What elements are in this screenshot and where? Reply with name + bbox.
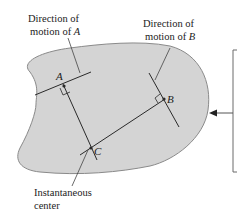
point-c-label: C <box>94 145 102 157</box>
point-a-marker <box>62 84 65 87</box>
ic-label-line1: Instantaneous <box>34 187 92 198</box>
dir-a-label-line2: motion of A <box>30 26 81 37</box>
point-a-label: A <box>55 70 63 82</box>
right-bracket <box>233 50 237 172</box>
ic-label-line2: center <box>34 200 60 211</box>
dir-a-label-line1: Direction of <box>28 13 80 24</box>
point-b-label: B <box>167 93 174 105</box>
dir-b-label-line2: motion of B <box>145 31 196 42</box>
point-c-marker <box>89 146 92 149</box>
point-b-marker <box>162 97 165 100</box>
instantaneous-center-diagram: A B C Direction of motion of A Direction… <box>0 0 237 216</box>
rigid-body-shape <box>18 43 209 174</box>
dir-b-label-line1: Direction of <box>143 18 195 29</box>
arrow-left-icon <box>209 110 217 117</box>
